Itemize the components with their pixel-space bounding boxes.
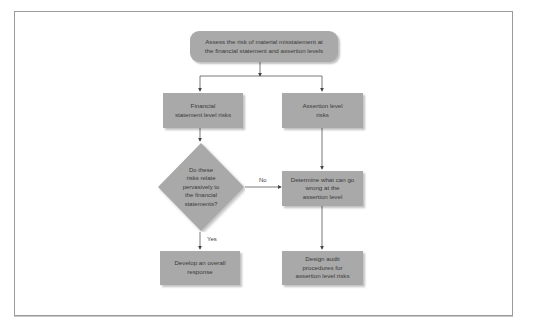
financial-statement-risks-node: Financial statement level risks	[163, 93, 243, 128]
financial-statement-risks-text: Financial statement level risks	[175, 102, 231, 119]
assess-risk-node: Assess the risk of material misstatement…	[190, 31, 338, 62]
assertion-level-risks-text: Assertion level risks	[302, 102, 342, 119]
assess-risk-text: Assess the risk of material misstatement…	[205, 38, 323, 55]
decision-text: Do these risks relate pervasively to the…	[170, 162, 232, 212]
determine-wrong-text: Determine what can go wrong at the asser…	[291, 176, 355, 202]
assertion-level-risks-node: Assertion level risks	[282, 93, 363, 128]
determine-wrong-node: Determine what can go wrong at the asser…	[282, 171, 363, 206]
overall-response-node: Develop an overall response	[160, 251, 240, 285]
overall-response-text: Develop an overall response	[174, 259, 225, 276]
yes-label: Yes	[207, 236, 217, 242]
design-procedures-text: Design audit procedures for assertion le…	[296, 255, 350, 281]
design-procedures-node: Design audit procedures for assertion le…	[282, 251, 363, 285]
no-label: No	[259, 177, 267, 183]
